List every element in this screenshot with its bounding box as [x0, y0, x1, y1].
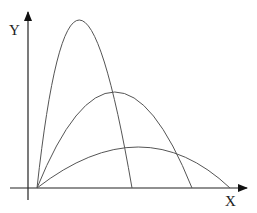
- y-axis-label: Y: [9, 22, 20, 39]
- trajectory-diagram: [0, 0, 257, 213]
- medium-trajectory-curve: [37, 92, 192, 188]
- shallow-trajectory-curve: [37, 147, 230, 188]
- steep-trajectory-curve: [37, 20, 132, 188]
- x-axis-label: X: [225, 193, 236, 210]
